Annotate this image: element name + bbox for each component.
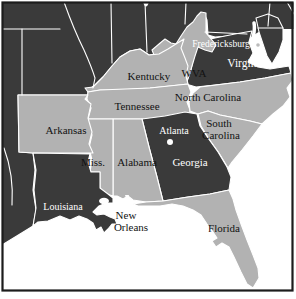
label-fredericksburg: Fredericksburg [192,39,250,49]
label-kentucky: Kentucky [128,70,171,82]
label-mississippi: Miss. [81,156,105,168]
label-new-orleans-line2: Orleans [114,221,148,233]
label-louisiana: Louisiana [43,201,83,212]
map-canvas: Fredericksburg WVA Virginia Kentucky Ten… [0,0,296,299]
label-north-carolina: North Carolina [175,91,241,103]
label-tennessee: Tennessee [114,100,159,112]
label-west-virginia: WVA [182,67,207,79]
label-atlanta: Atlanta [159,125,189,136]
label-virginia: Virginia [227,57,264,70]
atlanta-city-dot [167,139,173,145]
fredericksburg-city-dot [256,43,260,47]
label-south-carolina-line2: Carolina [202,129,240,141]
label-arkansas: Arkansas [46,124,87,136]
label-alabama: Alabama [117,156,157,168]
label-new-orleans-line1: New [116,209,137,221]
label-florida: Florida [208,222,240,234]
civil-war-region-map: Fredericksburg WVA Virginia Kentucky Ten… [0,0,296,299]
label-georgia: Georgia [172,156,207,168]
label-south-carolina-line1: South [206,117,232,129]
lake-pontchartrain [99,198,109,204]
